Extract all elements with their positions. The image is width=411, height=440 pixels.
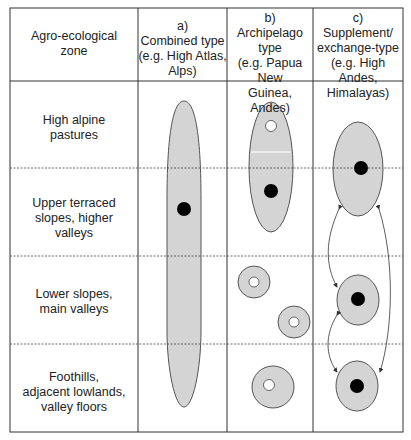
row-label-line: valley floors: [10, 400, 138, 415]
header-col-c: c) Supplement/ exchange-type (e.g. High …: [313, 11, 403, 101]
header-line: (e.g. High Atlas,: [138, 49, 227, 64]
row-label-line: valleys: [10, 226, 138, 241]
header-line: a): [138, 19, 227, 34]
header-line: Combined type: [138, 34, 227, 49]
row-label-line: main valleys: [10, 302, 138, 317]
header-line: exchange-type: [313, 41, 403, 56]
row-label-line: pastures: [10, 128, 138, 143]
row-label-line: High alpine: [10, 113, 138, 128]
row-label-line: adjacent lowlands,: [10, 385, 138, 400]
row-label-line: Upper terraced: [10, 196, 138, 211]
row-label-line: Foothills,: [10, 370, 138, 385]
header-line: Himalayas): [313, 86, 403, 101]
seasonal-dot-icon: [266, 121, 277, 132]
header-line: Guinea, Andes): [227, 86, 313, 116]
header-zone: Agro-ecological zone: [10, 29, 138, 59]
header-zone-line: zone: [10, 44, 138, 59]
row-label-high-alpine: High alpine pastures: [10, 113, 138, 143]
header-line: c): [313, 11, 403, 26]
header-zone-line: Agro-ecological: [10, 29, 138, 44]
seasonal-dot-icon: [264, 380, 275, 391]
row-label-line: slopes, higher: [10, 211, 138, 226]
row-label-upper-terraced: Upper terraced slopes, higher valleys: [10, 196, 138, 241]
header-line: Supplement/: [313, 26, 403, 41]
header-line: Archipelago: [227, 26, 313, 41]
row-label-lower-slopes: Lower slopes, main valleys: [10, 287, 138, 317]
exchange-arrow: [328, 315, 337, 372]
header-line: b): [227, 11, 313, 26]
seasonal-dot-icon: [249, 277, 259, 287]
row-label-line: Lower slopes,: [10, 287, 138, 302]
settlement-dot-icon: [350, 379, 364, 393]
settlement-dot-icon: [264, 184, 278, 198]
header-col-a: a) Combined type (e.g. High Atlas, Alps): [138, 19, 227, 79]
header-line: (e.g. Papua New: [227, 56, 313, 86]
header-col-b: b) Archipelago type (e.g. Papua New Guin…: [227, 11, 313, 116]
header-line: type: [227, 41, 313, 56]
settlement-dot-icon: [177, 202, 191, 216]
row-label-foothills: Foothills, adjacent lowlands, valley flo…: [10, 370, 138, 415]
header-line: (e.g. High Andes,: [313, 56, 403, 86]
seasonal-dot-icon: [289, 317, 299, 327]
exchange-arrow: [379, 209, 390, 372]
combined-type-shape: [167, 101, 201, 407]
exchange-arrow: [328, 209, 339, 287]
settlement-dot-icon: [351, 292, 365, 306]
header-line: Alps): [138, 64, 227, 79]
settlement-dot-icon: [354, 161, 368, 175]
